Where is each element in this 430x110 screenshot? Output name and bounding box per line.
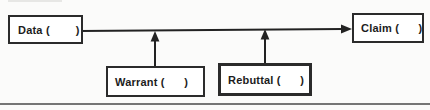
right-arrowhead-icon <box>341 25 352 34</box>
page-rule-line <box>0 103 430 105</box>
data-box: Data ( ) <box>8 15 83 44</box>
rebuttal-box: Rebuttal ( ) <box>218 63 312 96</box>
claim-box-label: Claim ( ) <box>361 22 422 34</box>
data-to-claim-arrow <box>80 25 352 34</box>
data-box-label: Data ( ) <box>18 24 80 36</box>
warrant-box-label: Warrant ( ) <box>115 76 188 88</box>
up-arrowhead-icon <box>151 31 160 42</box>
toulmin-diagram: Data ( ) Claim ( ) Warrant ( ) Rebuttal … <box>0 0 430 110</box>
rebuttal-box-label: Rebuttal ( ) <box>228 74 304 86</box>
claim-box: Claim ( ) <box>352 13 424 43</box>
warrant-up-arrow <box>151 31 160 70</box>
warrant-box: Warrant ( ) <box>106 66 205 97</box>
rebuttal-up-arrow <box>261 29 270 67</box>
